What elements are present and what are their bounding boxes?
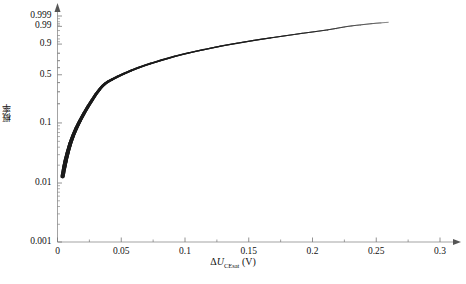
data-curve <box>63 22 389 176</box>
figure-caption <box>0 275 466 284</box>
y-axis-label: 概率 <box>2 104 16 122</box>
y-tick-label: 0.999 <box>30 11 51 21</box>
y-tick-label: 0.01 <box>35 178 52 188</box>
x-axis-label-symbol: U <box>217 256 224 267</box>
x-axis-label: ΔUCEsat (V) <box>0 256 466 269</box>
weibull-probability-plot: 0.0010.010.10.50.90.990.999 00.050.10.15… <box>0 0 466 284</box>
y-tick-label: 0.1 <box>40 118 52 128</box>
y-tick-label: 0.99 <box>35 21 52 31</box>
y-tick-label: 0.5 <box>40 70 52 80</box>
y-tick-label: 0.9 <box>40 39 52 49</box>
x-axis-label-unit: (V) <box>242 256 256 267</box>
x-axis-label-subscript: CEsat <box>224 262 240 269</box>
y-tick-label: 0.001 <box>30 237 51 247</box>
tick-marks <box>58 16 441 242</box>
plot-canvas <box>0 0 466 284</box>
